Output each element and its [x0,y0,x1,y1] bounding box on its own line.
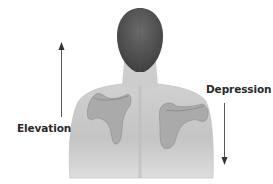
elevation-arrow [59,42,65,117]
depression-arrow [222,103,228,165]
shoulder-diagram: Elevation Depression [0,0,273,184]
depression-label: Depression [206,83,271,95]
elevation-label: Elevation [17,122,71,134]
